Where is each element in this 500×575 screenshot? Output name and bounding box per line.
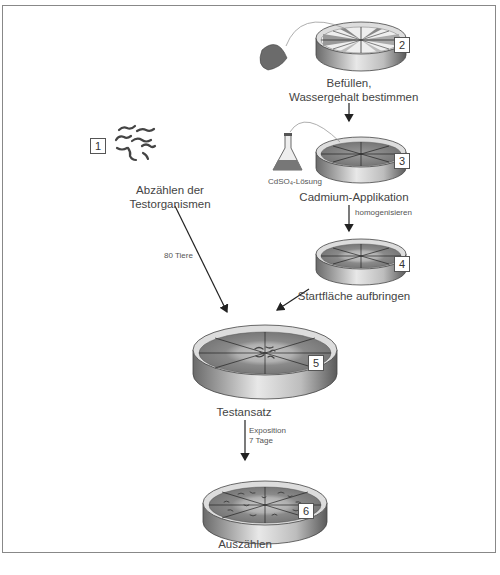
step-number-2: 2 (394, 37, 410, 53)
step-label-3: Cadmium-Applikation (299, 190, 409, 204)
step-label-2: Befüllen, Wassergehalt bestimmen (289, 76, 409, 104)
worms-icon (116, 126, 155, 160)
step-label-4: Startfläche aufbringen (294, 289, 414, 303)
dish-step2 (316, 22, 406, 71)
diagram-graphics (0, 0, 500, 575)
step-label-6: Auszählen (205, 537, 285, 551)
arrow-label-exposition: Exposition 7 Tage (249, 426, 286, 446)
flask-icon (273, 133, 302, 170)
step-number-3: 3 (394, 153, 410, 169)
dish-step4 (316, 239, 406, 285)
soil-sample-icon (260, 45, 287, 70)
step-number-1: 1 (90, 138, 106, 154)
step-number-6: 6 (298, 503, 314, 519)
step-label-1: Abzählen der Testorganismen (110, 183, 230, 211)
reagent-label: CdSO₄-Lösung (268, 177, 322, 187)
dish-step3 (316, 137, 406, 183)
arrow-label-homogenisieren: homogenisieren (355, 208, 412, 218)
step-number-4: 4 (394, 256, 410, 272)
step-number-5: 5 (308, 355, 324, 371)
arrow-label-80-tiere: 80 Tiere (164, 251, 193, 261)
step-label-5: Testansatz (204, 405, 284, 419)
